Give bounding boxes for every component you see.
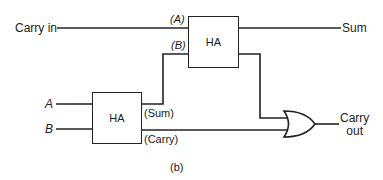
figure-caption: (b) xyxy=(170,161,183,173)
or-gate xyxy=(284,111,315,137)
half-adder-bottom-label: HA xyxy=(109,112,124,124)
top-carry-wire xyxy=(238,54,290,118)
internal-sum-wire xyxy=(141,54,188,104)
half-adder-bottom: HA xyxy=(92,92,142,144)
input-a-top-label: (A) xyxy=(170,13,185,25)
half-adder-top-label: HA xyxy=(206,36,221,48)
input-b-top-label: (B) xyxy=(171,39,186,51)
input-a-label: A xyxy=(45,98,53,110)
bottom-sum-output-label: (Sum) xyxy=(144,107,174,119)
sum-label: Sum xyxy=(342,22,367,34)
input-b-label: B xyxy=(45,123,53,135)
carry-out-label: Carry out xyxy=(340,112,369,138)
bottom-carry-output-label: (Carry) xyxy=(144,133,178,145)
half-adder-top: HA xyxy=(188,16,239,68)
carry-in-label: Carry in xyxy=(15,22,57,34)
carry-out-label-line2: out xyxy=(340,125,369,138)
